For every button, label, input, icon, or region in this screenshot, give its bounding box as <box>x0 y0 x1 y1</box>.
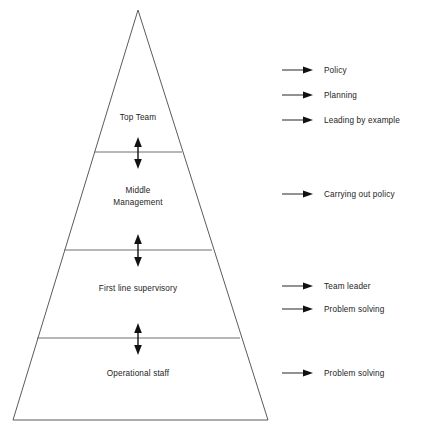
legend-arrow-team-leader <box>282 282 313 289</box>
legend-label-carrying-out-policy: Carrying out policy <box>324 189 395 200</box>
legend-label-planning: Planning <box>324 90 357 101</box>
legend-arrow-problem-solving-supervisory <box>282 305 313 312</box>
pyramid-diagram: Top Team Middle Management First line su… <box>0 0 429 436</box>
legend-arrow-problem-solving-operational <box>282 369 313 376</box>
connector-top-middle-icon <box>134 137 142 169</box>
legend-label-policy: Policy <box>324 65 347 76</box>
legend-arrow-policy <box>282 66 313 73</box>
legend-label-problem-solving-operational: Problem solving <box>324 368 385 379</box>
pyramid-outline <box>13 10 268 420</box>
legend-label-leading-by-example: Leading by example <box>324 115 400 126</box>
legend-label-team-leader: Team leader <box>324 281 371 292</box>
legend-arrow-carrying-out-policy <box>282 190 313 197</box>
connector-firstline-operational-icon <box>134 323 142 355</box>
legend-arrow-leading-by-example <box>282 116 313 123</box>
legend-arrow-planning <box>282 91 313 98</box>
legend-label-problem-solving-supervisory: Problem solving <box>324 304 385 315</box>
